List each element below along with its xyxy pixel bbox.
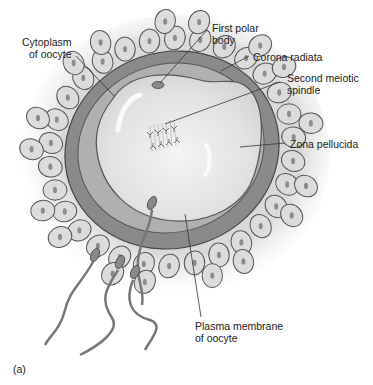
cell-nucleus xyxy=(173,35,177,41)
label-cytoplasm-of-oocyte: Cytoplasm of oocyte xyxy=(22,36,72,60)
cell-nucleus xyxy=(48,164,52,170)
cell-nucleus xyxy=(287,111,291,117)
label-zona-pellucida: Zona pellucida xyxy=(290,138,358,150)
cell-nucleus xyxy=(72,60,76,66)
cell-nucleus xyxy=(101,58,105,64)
oocyte-diagram: Cytoplasm of oocyte First polar body Cor… xyxy=(0,0,373,385)
cell-nucleus xyxy=(167,263,171,269)
cell-nucleus xyxy=(274,203,278,209)
cell-nucleus xyxy=(290,212,294,218)
cell-nucleus xyxy=(143,279,147,285)
cell-nucleus xyxy=(77,227,81,233)
label-plasma-membrane-of-oocyte: Plasma membrane of oocyte xyxy=(195,320,283,344)
cell-nucleus xyxy=(241,258,245,264)
cell-nucleus xyxy=(259,223,263,229)
label-corona-radiata: Corona radiata xyxy=(253,51,322,63)
cell-nucleus xyxy=(148,38,152,44)
cell-nucleus xyxy=(36,115,40,121)
cell-nucleus xyxy=(63,208,67,214)
cell-nucleus xyxy=(217,252,221,258)
cell-nucleus xyxy=(30,146,34,152)
cell-nucleus xyxy=(142,261,146,267)
cell-nucleus xyxy=(58,234,62,240)
cell-nucleus xyxy=(49,140,53,146)
cell-nucleus xyxy=(282,64,286,70)
cell-nucleus xyxy=(66,94,70,100)
cell-nucleus xyxy=(81,75,85,81)
cell-nucleus xyxy=(285,181,289,187)
cell-nucleus xyxy=(197,19,201,25)
cell-nucleus xyxy=(55,116,59,122)
label-second-meiotic-spindle: Second meiotic spindle xyxy=(287,72,359,96)
cell-nucleus xyxy=(277,89,281,95)
label-first-polar-body: First polar body xyxy=(212,22,259,46)
cell-nucleus xyxy=(309,120,313,126)
cell-nucleus xyxy=(210,272,214,278)
cell-nucleus xyxy=(291,158,295,164)
cell-nucleus xyxy=(163,18,167,24)
cell-nucleus xyxy=(99,39,103,45)
cell-nucleus xyxy=(263,70,267,76)
oocyte-cytoplasm xyxy=(96,75,261,221)
cell-nucleus xyxy=(123,46,127,52)
cell-nucleus xyxy=(304,183,308,189)
cell-nucleus xyxy=(41,207,45,213)
panel-label: (a) xyxy=(13,363,26,375)
first-polar-body xyxy=(152,82,164,89)
sperm-tail xyxy=(45,262,93,345)
cell-nucleus xyxy=(239,239,243,245)
cell-nucleus xyxy=(258,42,262,48)
cell-nucleus xyxy=(53,187,57,193)
